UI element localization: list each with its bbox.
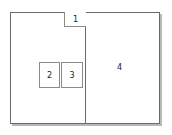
region-2-label: 2 [47,71,52,80]
region-1: 1 [64,12,86,27]
region-4-label: 4 [117,63,122,72]
region-3: 3 [61,62,83,88]
region-3-label: 3 [69,71,74,80]
vertical-divider [85,12,86,124]
region-1-label: 1 [73,15,78,24]
region-2: 2 [39,62,60,88]
